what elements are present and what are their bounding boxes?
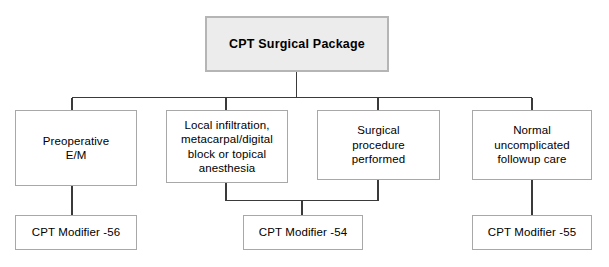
node-label: Surgical procedure performed xyxy=(348,123,409,167)
node-label: CPT Modifier -56 xyxy=(28,225,124,240)
node-label: Normal uncomplicated followup care xyxy=(490,123,573,167)
node-label: CPT Surgical Package xyxy=(225,37,369,52)
node-label: Local infiltration, metacarpal/digital b… xyxy=(177,118,277,176)
node-label: CPT Modifier -54 xyxy=(255,225,351,240)
node-cpt-surgical-package[interactable]: CPT Surgical Package xyxy=(205,16,389,72)
node-label: Preoperative E/M xyxy=(39,134,113,163)
node-surgical-procedure[interactable]: Surgical procedure performed xyxy=(317,110,440,180)
node-local-anesthesia[interactable]: Local infiltration, metacarpal/digital b… xyxy=(166,110,288,183)
node-cpt-modifier-55[interactable]: CPT Modifier -55 xyxy=(472,215,592,250)
node-preoperative-em[interactable]: Preoperative E/M xyxy=(15,110,137,186)
node-label: CPT Modifier -55 xyxy=(484,225,580,240)
node-followup-care[interactable]: Normal uncomplicated followup care xyxy=(472,110,592,180)
flowchart-canvas: CPT Surgical Package Preoperative E/M Lo… xyxy=(0,0,609,267)
node-cpt-modifier-56[interactable]: CPT Modifier -56 xyxy=(15,215,137,250)
node-cpt-modifier-54[interactable]: CPT Modifier -54 xyxy=(243,215,363,250)
